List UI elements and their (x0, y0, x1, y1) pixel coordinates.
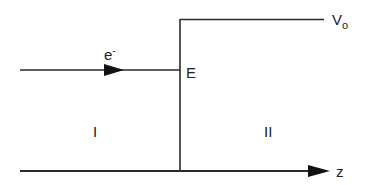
z-axis-arrow-icon (308, 165, 330, 177)
region-2-label: II (264, 123, 272, 140)
potential-label: Vo (332, 11, 348, 31)
region-1-label: I (93, 123, 97, 140)
energy-label: E (186, 64, 196, 81)
electron-label: e- (104, 45, 116, 63)
potential-step-diagram: e- E Vo I II z (0, 0, 367, 185)
electron-direction-arrow-icon (104, 64, 124, 76)
z-axis-label: z (336, 163, 344, 180)
